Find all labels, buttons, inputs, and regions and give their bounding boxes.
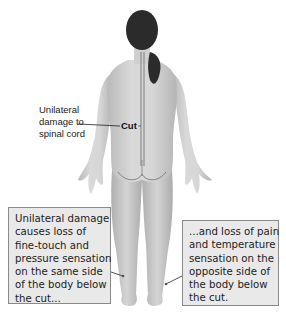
callout-line: sensation on the xyxy=(189,252,273,265)
left-callout-dot xyxy=(122,275,125,278)
legs xyxy=(111,170,173,306)
callout-line: ...and loss of pain xyxy=(189,225,273,238)
label-line: Unilateral xyxy=(39,104,85,116)
callout-line: pressure sensation xyxy=(15,252,105,265)
right-callout-pointer xyxy=(166,276,182,284)
torso xyxy=(107,60,177,182)
right-arm xyxy=(172,73,212,194)
callout-line: on the same side xyxy=(15,265,105,278)
same-side-callout: Unilateral damage causes loss of fine-to… xyxy=(8,207,111,304)
callout-line: the cut... xyxy=(15,292,105,305)
callout-line: fine-touch and xyxy=(15,239,105,252)
callout-line: of the body below xyxy=(15,278,105,291)
unilateral-damage-label: Unilateral damage to spinal cord xyxy=(39,104,85,140)
callout-line: and temperature xyxy=(189,238,273,251)
label-line: damage to xyxy=(39,116,85,128)
right-callout-dot xyxy=(165,283,168,286)
callout-line: Unilateral damage xyxy=(15,212,105,225)
opposite-side-callout: ...and loss of pain and temperature sens… xyxy=(182,220,279,306)
callout-line: the cut. xyxy=(189,291,273,304)
label-line: spinal cord xyxy=(39,128,85,140)
cut-label: Cut xyxy=(121,120,137,131)
callout-line: opposite side of xyxy=(189,265,273,278)
callout-line: causes loss of xyxy=(15,225,105,238)
callout-line: the body below xyxy=(189,278,273,291)
